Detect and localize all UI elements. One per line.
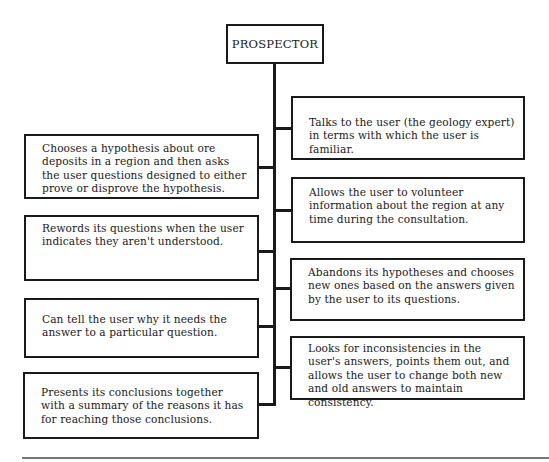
right-node-2: Allows the user to volunteer information… (291, 177, 525, 243)
left-node-3: Can tell the user why it needs the answe… (24, 298, 259, 358)
connector-left-4 (258, 403, 274, 406)
right-node-3-text: Abandons its hypotheses and chooses new … (308, 266, 515, 305)
bottom-divider (22, 457, 549, 459)
left-node-2: Rewords its questions when the user indi… (24, 215, 259, 281)
left-node-1: Chooses a hypothesis about ore deposits … (24, 134, 259, 199)
left-node-4: Presents its conclusions together with a… (23, 372, 259, 439)
root-label: PROSPECTOR (232, 37, 318, 51)
right-node-1: Talks to the user (the geology expert) i… (291, 96, 525, 160)
trunk-line (273, 63, 276, 406)
connector-right-1 (275, 127, 292, 130)
right-node-1-text: Talks to the user (the geology expert) i… (309, 116, 515, 155)
right-node-3: Abandons its hypotheses and chooses new … (290, 258, 525, 321)
right-node-4: Looks for inconsistencies in the user's … (290, 336, 525, 400)
right-node-4-text: Looks for inconsistencies in the user's … (308, 342, 509, 408)
left-node-3-text: Can tell the user why it needs the answe… (42, 313, 227, 338)
left-node-1-text: Chooses a hypothesis about ore deposits … (42, 142, 246, 194)
connector-left-1 (258, 166, 274, 169)
right-node-2-text: Allows the user to volunteer information… (309, 186, 504, 225)
connector-left-2 (258, 250, 274, 253)
left-node-2-text: Rewords its questions when the user indi… (42, 222, 244, 247)
left-node-4-text: Presents its conclusions together with a… (41, 386, 243, 425)
connector-left-3 (258, 325, 274, 328)
connector-right-2 (275, 209, 292, 212)
root-node-prospector: PROSPECTOR (226, 24, 324, 64)
